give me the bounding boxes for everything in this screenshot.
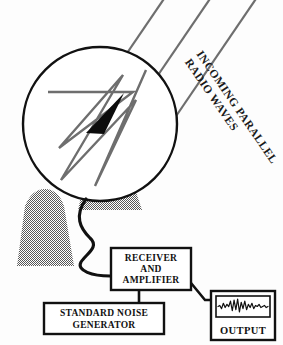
noise-generator-line1: STANDARD NOISE xyxy=(60,308,148,318)
noise-generator-box[interactable]: STANDARD NOISE GENERATOR xyxy=(44,303,164,334)
receiver-line2: AND xyxy=(140,264,161,274)
output-box[interactable]: OUTPUT xyxy=(211,291,275,340)
noise-generator-line2: GENERATOR xyxy=(72,320,135,330)
connector-receiver-to-output xyxy=(191,283,213,300)
output-label: OUTPUT xyxy=(220,325,266,336)
receiver-line1: RECEIVER xyxy=(125,253,178,263)
receiver-amplifier-box[interactable]: RECEIVER AND AMPLIFIER xyxy=(111,248,191,290)
antenna-pedestal xyxy=(17,189,74,266)
diagram-canvas: INCOMING PARALLEL RADIO WAVES RECEIVER A… xyxy=(0,0,283,345)
signal-cable xyxy=(79,199,110,276)
incoming-waves-line1: INCOMING PARALLEL xyxy=(194,48,280,165)
radio-telescope-diagram: INCOMING PARALLEL RADIO WAVES RECEIVER A… xyxy=(0,0,283,345)
receiver-line3: AMPLIFIER xyxy=(122,275,179,285)
incoming-waves-label: INCOMING PARALLEL RADIO WAVES xyxy=(183,48,280,173)
